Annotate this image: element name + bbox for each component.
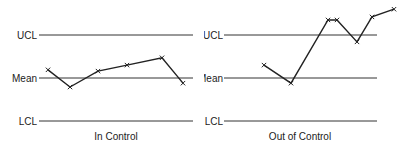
lcl-label: LCL <box>205 116 224 127</box>
mean-label: Mean <box>12 73 37 84</box>
ucl-label: UCL <box>17 30 37 41</box>
lcl-label: LCL <box>19 116 38 127</box>
x-marker-icon <box>355 40 359 44</box>
data-series <box>46 56 185 90</box>
x-marker-icon <box>262 63 266 67</box>
ucl-label: UCL <box>204 30 223 41</box>
x-marker-icon <box>68 85 72 89</box>
series-line <box>48 58 183 87</box>
x-marker-icon <box>181 81 185 85</box>
out-of-control-plot: UCL Mean LCL Out of Control <box>204 0 407 149</box>
out-of-control-chart: UCL Mean LCL Out of Control <box>204 0 407 149</box>
data-series <box>262 7 396 85</box>
chart-title: In Control <box>94 131 137 142</box>
in-control-chart: UCL Mean LCL In Control <box>0 0 204 149</box>
mean-label: Mean <box>204 73 223 84</box>
x-marker-icon <box>46 68 50 72</box>
x-marker-icon <box>289 81 293 85</box>
chart-title: Out of Control <box>269 131 331 142</box>
in-control-plot: UCL Mean LCL In Control <box>0 0 204 149</box>
